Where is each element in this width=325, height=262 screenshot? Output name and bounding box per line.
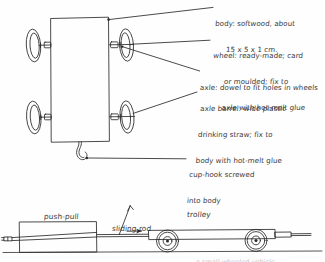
trolley-wheel-left: [157, 230, 179, 252]
label-trolley: trolley: [185, 194, 213, 237]
wheel-rear-right: [110, 100, 136, 133]
trolley-body-rect: [51, 17, 109, 142]
annotation-wheel-line-1: wheel: ready-made; card: [213, 52, 310, 61]
wheel-front-left: [25, 29, 51, 63]
trolley-wheel-right: [245, 229, 267, 251]
wheel-front-right: [109, 28, 134, 61]
wheel-rear-left: [25, 101, 51, 135]
annotation-axle-barrel-line-1: axle barrel: wide plastic: [200, 105, 287, 114]
annotation-axle-barrel-line-2: drinking straw; fix to: [198, 131, 285, 140]
leader-line-wheel: [132, 40, 210, 44]
label-push-pull: push-pull: [42, 196, 81, 239]
leader-line-cup-hook: [86, 157, 187, 160]
leader-line-body: [107, 7, 213, 21]
leader-line-axle: [121, 45, 200, 71]
cup-hook: [77, 142, 87, 160]
annotation-cup-hook-line-1: cup-hook screwed: [189, 171, 255, 180]
leader-line-axle-barrel: [133, 92, 197, 113]
label-sliding-rod: sliding rod: [110, 208, 154, 251]
sketch-page: body: softwood, about 15 x 5 x 1 cm. whe…: [0, 0, 325, 262]
cut-off-caption: a small wheeled vehicle: [196, 258, 276, 262]
annotation-body-line-1: body: softwood, about: [215, 20, 296, 29]
